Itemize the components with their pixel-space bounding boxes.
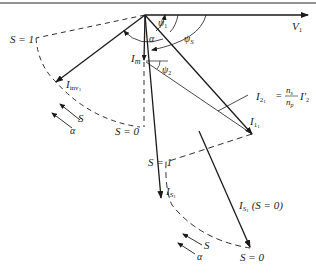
arrow-s-left bbox=[60, 104, 80, 120]
svg-text:ns: ns bbox=[286, 85, 294, 96]
label-i-inv: Iinv1 bbox=[65, 78, 82, 92]
label-i-s1-s0: IS1(S = 0) bbox=[238, 199, 283, 213]
alpha-arc bbox=[124, 31, 163, 42]
label-i-m: Im bbox=[130, 52, 141, 66]
label-s0-upper: S = 0 bbox=[115, 125, 139, 137]
label-s1-top: S = 1 bbox=[10, 33, 34, 45]
arrow-alpha-left bbox=[52, 113, 72, 128]
label-psis: ψS bbox=[184, 33, 194, 46]
i-inv-phasor bbox=[56, 15, 145, 82]
label-arc-bottom-alpha: α bbox=[197, 251, 203, 262]
label-i-s1: IS1 bbox=[165, 185, 176, 199]
svg-text:I′2: I′2 bbox=[299, 90, 309, 103]
psi2-arc bbox=[157, 61, 160, 69]
svg-text:=: = bbox=[276, 90, 282, 101]
label-v1: V1 bbox=[292, 20, 303, 34]
phasor-diagram: V1 S = 1 Iinv1 Im α ψ1 ψS ψ2 S = 0 I21 =… bbox=[0, 0, 316, 276]
arrow-s-bottom bbox=[183, 234, 202, 245]
label-s0-bottom: S = 0 bbox=[240, 251, 264, 263]
label-s1-mid: S = 1 bbox=[148, 156, 172, 168]
locus-arc-bottom bbox=[166, 162, 250, 248]
i-m-phasor bbox=[144, 15, 145, 60]
i-s1-s0-phasor bbox=[199, 131, 250, 247]
locus-dashed-mid bbox=[166, 134, 252, 162]
label-arc-bottom-s: S bbox=[204, 239, 210, 251]
arrow-alpha-bottom bbox=[178, 243, 195, 254]
svg-text:np: np bbox=[286, 97, 294, 108]
label-psi1: ψ1 bbox=[158, 17, 167, 29]
psis-arc-2 bbox=[170, 15, 178, 32]
locus-arc-left bbox=[36, 38, 140, 127]
label-i2-equation: I21 = ns np I′2 bbox=[255, 85, 309, 108]
label-arc-left-s: S bbox=[78, 112, 84, 124]
i2-leader bbox=[218, 95, 248, 111]
label-psi2: ψ2 bbox=[162, 64, 171, 76]
label-i-11: I11 bbox=[249, 115, 260, 129]
label-arc-left-alpha: α bbox=[70, 125, 76, 136]
svg-text:I21: I21 bbox=[255, 90, 266, 104]
label-alpha-top: α bbox=[149, 33, 155, 44]
